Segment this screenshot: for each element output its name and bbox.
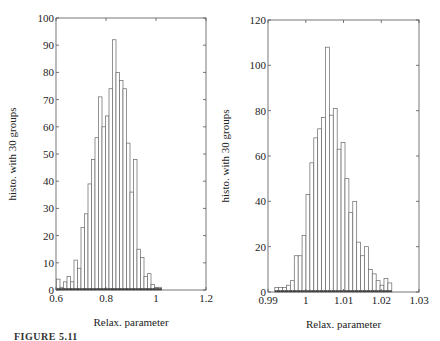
histogram-bar [78, 268, 82, 290]
x-tick-label: 1.03 [409, 294, 429, 306]
histogram-bar [376, 281, 380, 292]
histogram-bar [306, 195, 310, 292]
histogram-bar [290, 281, 294, 292]
histogram-bar [127, 143, 131, 290]
histogram-bar [123, 89, 127, 290]
histogram-bar [109, 89, 113, 290]
histogram-bar [368, 269, 372, 292]
x-tick-label: 1 [153, 292, 159, 304]
y-tick-label: 30 [43, 202, 55, 214]
x-tick-label: 0.99 [258, 294, 278, 306]
histogram-bar [141, 257, 145, 290]
y-tick-label: 80 [43, 66, 55, 78]
histogram-bar [345, 179, 349, 292]
y-tick-label: 80 [255, 105, 267, 117]
histogram-bar [294, 256, 298, 292]
histogram-bar [134, 159, 138, 290]
histogram-figure: 01020304050607080901000.60.811.2Relax. p… [0, 0, 440, 341]
histogram-bar [310, 163, 314, 292]
x-tick-label: 0.6 [49, 292, 63, 304]
histogram-bar [341, 142, 345, 292]
histogram-bar [148, 274, 152, 290]
right-histogram: 0204060801001200.9911.011.021.03Relax. p… [219, 14, 429, 330]
y-tick-label: 120 [250, 14, 267, 26]
histogram-bar [116, 72, 120, 290]
histogram-bar [298, 256, 302, 292]
y-tick-label: 40 [43, 175, 55, 187]
histogram-bar [106, 116, 110, 290]
x-axis-label: Relax. parameter [306, 318, 381, 330]
histogram-bar [364, 247, 368, 292]
histogram-bar [88, 184, 92, 290]
y-tick-label: 10 [43, 257, 55, 269]
histogram-bar [57, 279, 61, 290]
y-tick-label: 60 [43, 121, 55, 133]
histogram-bar [85, 214, 89, 290]
histogram-bar [99, 97, 103, 290]
histogram-bar [337, 149, 341, 292]
histogram-bar [325, 47, 329, 292]
histogram-bar [302, 235, 306, 292]
histogram-bar [95, 138, 99, 290]
histogram-bar [102, 127, 106, 290]
x-tick-label: 1.01 [334, 294, 353, 306]
histogram-bar [361, 256, 365, 292]
x-tick-label: 1.02 [372, 294, 391, 306]
histogram-bar [357, 242, 361, 292]
x-tick-label: 1 [303, 294, 309, 306]
histogram-bar [329, 115, 333, 292]
y-tick-label: 100 [38, 12, 55, 24]
histogram-bar [372, 274, 376, 292]
y-axis-label: histo. with 30 groups [6, 108, 18, 201]
histogram-bar [92, 159, 96, 290]
histogram-bar [322, 117, 326, 292]
histogram-bar [318, 129, 322, 292]
histogram-bar [74, 260, 78, 290]
histogram-bar [120, 81, 124, 290]
histogram-bar [353, 201, 357, 292]
histogram-bar [349, 213, 353, 292]
histogram-bar [113, 40, 117, 290]
figure-caption: FIGURE 5.11 [14, 331, 78, 341]
y-tick-label: 20 [43, 230, 55, 242]
y-tick-label: 60 [255, 150, 267, 162]
histogram-bar [144, 276, 148, 290]
y-tick-label: 50 [43, 148, 55, 160]
y-tick-label: 20 [255, 241, 267, 253]
histogram-bar [67, 276, 71, 290]
histogram-bar [314, 138, 318, 292]
histogram-bar [384, 278, 388, 292]
y-tick-label: 70 [43, 94, 55, 106]
y-tick-label: 90 [43, 39, 55, 51]
y-tick-label: 100 [250, 59, 267, 71]
histogram-bar [130, 192, 134, 290]
x-tick-label: 0.8 [99, 292, 113, 304]
histogram-bar [81, 227, 85, 290]
x-tick-label: 1.2 [199, 292, 213, 304]
histogram-bar [137, 249, 141, 290]
x-axis-label: Relax. parameter [93, 316, 168, 328]
left-histogram: 01020304050607080901000.60.811.2Relax. p… [6, 12, 213, 328]
y-axis-label: histo. with 30 groups [219, 110, 231, 203]
y-tick-label: 40 [255, 195, 267, 207]
histogram-bar [333, 108, 337, 292]
